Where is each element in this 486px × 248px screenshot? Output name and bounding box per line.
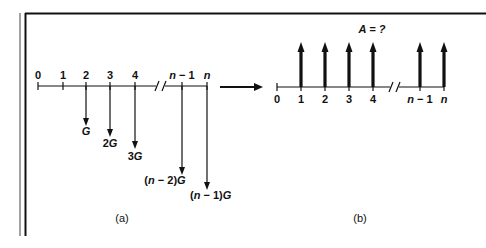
tick-label-b-6: n <box>441 93 448 105</box>
tick-label-a-5: n − 1 <box>169 69 194 81</box>
caption-a: (a) <box>115 212 128 224</box>
diagram-a: 01234n − 1n G2G3G(n − 2)G(n − 1)G (a) <box>35 69 232 224</box>
cash-flow-diagram: 01234n − 1n G2G3G(n − 2)G(n − 1)G (a) A … <box>0 0 486 248</box>
annuity-title: A = ? <box>358 23 386 35</box>
transform-arrow-icon <box>220 83 263 91</box>
arrowhead-down-icon <box>132 141 138 149</box>
cash-flow-label-a-1: 2G <box>103 137 118 149</box>
arrowhead-up-icon <box>417 42 424 52</box>
tick-label-b-3: 3 <box>346 93 352 105</box>
arrowhead-down-icon <box>107 129 113 137</box>
cash-flow-label-a-4: (n − 1)G <box>190 189 232 201</box>
arrowhead-up-icon <box>441 42 448 52</box>
arrowhead-up-icon <box>346 42 353 52</box>
cash-flow-label-a-3: (n − 2)G <box>144 174 186 186</box>
caption-b: (b) <box>353 212 366 224</box>
arrowhead-up-icon <box>298 42 305 52</box>
tick-label-b-5: n − 1 <box>407 93 432 105</box>
diagram-b: A = ? 01234n − 1n (b) <box>274 23 448 224</box>
tick-label-a-1: 1 <box>60 69 66 81</box>
tick-label-a-3: 3 <box>107 69 113 81</box>
arrowhead-up-icon <box>322 42 329 52</box>
tick-label-b-2: 2 <box>322 93 328 105</box>
tick-label-a-6: n <box>204 69 211 81</box>
arrowhead-up-icon <box>370 42 377 52</box>
tick-label-b-4: 4 <box>370 93 377 105</box>
axis-break-b <box>389 82 400 92</box>
axis-break-a <box>155 81 166 91</box>
tick-label-a-4: 4 <box>132 69 139 81</box>
cash-flow-label-a-2: 3G <box>128 150 143 162</box>
tick-label-b-0: 0 <box>274 93 280 105</box>
tick-label-b-1: 1 <box>298 93 304 105</box>
tick-label-a-0: 0 <box>35 69 41 81</box>
cash-flow-label-a-0: G <box>82 125 91 137</box>
tick-label-a-2: 2 <box>83 69 89 81</box>
